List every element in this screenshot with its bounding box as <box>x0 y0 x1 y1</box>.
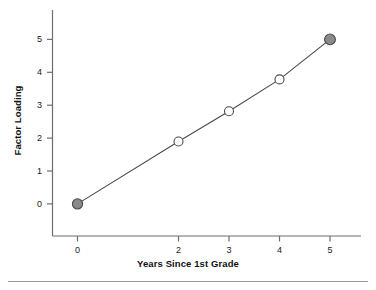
y-axis-title-text: Factor Loading <box>12 85 23 155</box>
x-tick-label-2: 2 <box>176 245 181 255</box>
data-point-4 <box>275 75 284 84</box>
y-axis-title: Factor Loading <box>6 50 28 190</box>
y-tick-label-2: 2 <box>28 133 42 143</box>
x-tick-label-5: 5 <box>327 245 332 255</box>
y-tick-label-3: 3 <box>28 100 42 110</box>
x-axis-ticks <box>78 236 331 242</box>
footer-divider <box>8 281 368 282</box>
data-point-2 <box>174 137 183 146</box>
data-line <box>78 39 331 204</box>
y-tick-label-5: 5 <box>28 34 42 44</box>
plot-area <box>0 0 376 290</box>
data-point-3 <box>225 107 234 116</box>
x-tick-label-0: 0 <box>75 245 80 255</box>
x-tick-label-3: 3 <box>226 245 231 255</box>
y-tick-label-1: 1 <box>28 166 42 176</box>
data-point-5 <box>325 34 336 45</box>
data-point-0 <box>72 199 82 209</box>
x-axis-title: Years Since 1st Grade <box>0 258 376 269</box>
y-tick-label-0: 0 <box>28 199 42 209</box>
y-tick-label-4: 4 <box>28 67 42 77</box>
chart-figure: 5 4 3 2 1 0 0 2 3 4 5 Years Since 1st Gr… <box>0 0 376 290</box>
y-axis-ticks <box>47 39 53 204</box>
x-tick-label-4: 4 <box>277 245 282 255</box>
